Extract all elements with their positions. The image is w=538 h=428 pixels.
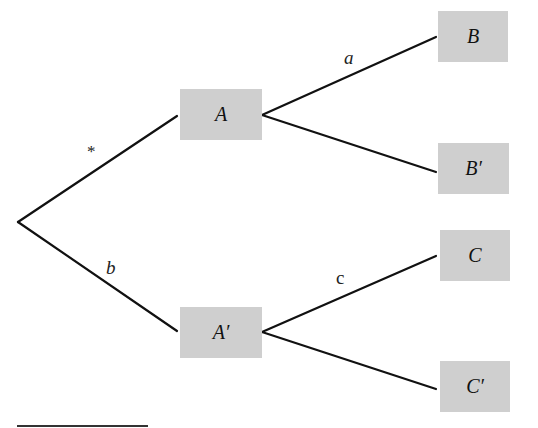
- edge-label-A-prime-C: c: [336, 268, 344, 287]
- edge-A-prime-C-prime: [262, 332, 436, 389]
- node-A-prime: A′: [180, 307, 262, 358]
- edge-A-prime-C: [262, 256, 436, 332]
- node-A-label: A: [215, 103, 227, 126]
- node-B: B: [438, 11, 508, 62]
- edge-label-root-A: *: [87, 143, 96, 160]
- edge-A-B-prime: [262, 115, 436, 172]
- edge-label-A-B: a: [344, 48, 354, 67]
- node-B-prime: B′: [438, 143, 509, 194]
- edge-root-A-prime: [18, 222, 177, 331]
- node-B-prime-label: B′: [465, 157, 482, 180]
- edge-root-A: [18, 116, 177, 222]
- node-C: C: [440, 230, 510, 281]
- edge-label-root-A-prime: b: [106, 258, 116, 277]
- node-A: A: [180, 89, 262, 140]
- node-C-prime-label: C′: [466, 375, 484, 398]
- node-A-prime-label: A′: [213, 321, 230, 344]
- node-C-prime: C′: [440, 361, 510, 412]
- node-B-label: B: [467, 25, 479, 48]
- node-C-label: C: [468, 244, 481, 267]
